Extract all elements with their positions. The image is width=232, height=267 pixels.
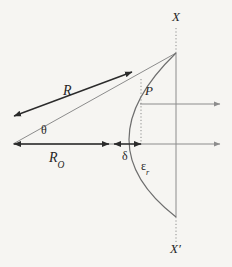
- permittivity-subscript: r: [146, 168, 149, 177]
- axis-label-top: X: [172, 10, 180, 23]
- point-label: P: [145, 84, 153, 97]
- permittivity-label: εr: [141, 160, 149, 176]
- axial-distance-subscript: O: [58, 160, 65, 170]
- lens-curved-face: [129, 53, 176, 217]
- thickness-label: δ: [122, 150, 128, 162]
- lens-geometry-figure: X X′ R θ RO δ εr P: [0, 0, 232, 267]
- axial-distance-label: RO: [49, 151, 64, 168]
- oblique-ray: [13, 53, 176, 144]
- diagram-canvas: [0, 0, 232, 267]
- dimension-arrow-R: [14, 72, 132, 116]
- axis-label-bottom: X′: [170, 242, 181, 255]
- ray-length-label: R: [63, 84, 72, 98]
- axial-distance-base: R: [49, 150, 58, 165]
- angle-label: θ: [41, 124, 47, 136]
